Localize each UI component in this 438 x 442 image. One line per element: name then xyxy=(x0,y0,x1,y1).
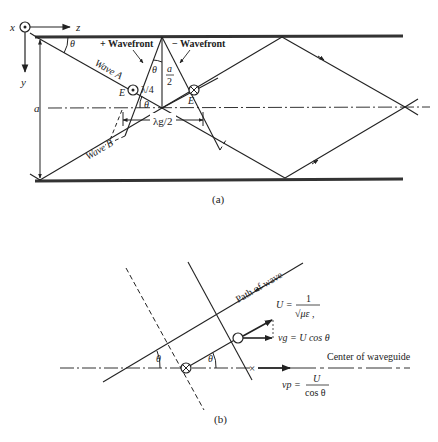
theta-left-label: θ xyxy=(156,353,161,364)
dimension-a-label: a xyxy=(34,102,40,114)
u-equation-denominator: √με , xyxy=(295,308,314,319)
waveguide-diagram: x z y a xyxy=(0,0,438,442)
theta-bottom-label: θ xyxy=(144,99,149,110)
wavefront-dashed xyxy=(126,268,204,410)
u-equation-lhs: U = xyxy=(276,299,292,310)
center-line xyxy=(48,107,430,108)
wavefront-solid xyxy=(188,262,252,380)
u-vector xyxy=(243,320,272,336)
a-over-2-numerator: a xyxy=(167,63,172,74)
caption-a: (a) xyxy=(212,193,225,206)
center-of-waveguide-label: Center of waveguide xyxy=(327,351,411,362)
plus-wavefront-label: + Wavefront xyxy=(100,38,154,49)
z-axis-label: z xyxy=(75,21,81,33)
axis-indicator: x z y xyxy=(9,21,81,88)
top-wall xyxy=(35,36,403,37)
theta-arc-right xyxy=(213,353,216,368)
y-axis-label: y xyxy=(20,76,26,88)
lambda-quarter-label: λ/4 xyxy=(141,84,154,95)
vp-equation-numerator: U xyxy=(313,373,321,384)
theta-mid-label: θ xyxy=(152,64,157,75)
minus-wavefront-label: − Wavefront xyxy=(172,38,226,49)
figure-b: × θ θ Path of wave U = 1 √με , vg = U co… xyxy=(60,262,411,426)
vp-equation-denominator: cos θ xyxy=(305,387,326,398)
u-equation-numerator: 1 xyxy=(306,293,311,304)
minus-wavefront-pointer xyxy=(180,50,190,63)
plus-wavefront-pointer xyxy=(133,50,143,63)
vg-equation: vg = U cos θ xyxy=(278,332,330,343)
theta-top-label: θ xyxy=(70,38,75,49)
vp-equation-lhs: vp = xyxy=(282,379,301,390)
wave-b-label: Wave B xyxy=(84,137,115,161)
bottom-wall xyxy=(35,179,403,181)
e-right-label: E xyxy=(187,95,194,106)
e-left-label: E xyxy=(118,87,125,98)
theta-right-label: θ xyxy=(208,353,213,364)
theta-arc-mid xyxy=(153,60,162,62)
a-over-2-denominator: 2 xyxy=(167,76,172,87)
lambda-g-half-label: λg/2 xyxy=(153,115,172,127)
x-crossing-marker: × xyxy=(249,362,255,374)
open-circle-marker xyxy=(233,333,243,343)
figure-a: x z y a xyxy=(9,21,430,206)
x-axis-label: x xyxy=(9,21,15,33)
theta-arc-top xyxy=(64,37,68,53)
theta-arc-bottom xyxy=(140,96,142,108)
caption-b: (b) xyxy=(214,413,227,426)
